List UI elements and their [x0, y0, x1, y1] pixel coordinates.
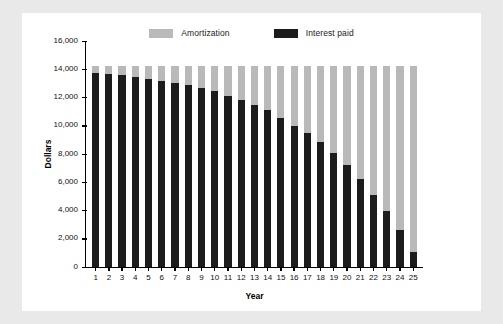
bar-segment-interest-paid[interactable]: [343, 165, 350, 267]
stacked-bar[interactable]: [185, 66, 192, 267]
bar-group[interactable]: [155, 41, 168, 267]
bar-segment-amortization[interactable]: [211, 66, 218, 92]
stacked-bar[interactable]: [343, 66, 350, 267]
bar-segment-amortization[interactable]: [357, 66, 364, 180]
bar-segment-interest-paid[interactable]: [171, 83, 178, 267]
bar-segment-interest-paid[interactable]: [396, 230, 403, 267]
bar-group[interactable]: [393, 41, 406, 267]
bar-segment-amortization[interactable]: [264, 66, 271, 110]
bar-segment-interest-paid[interactable]: [304, 133, 311, 267]
bar-segment-interest-paid[interactable]: [238, 100, 245, 267]
bar-group[interactable]: [367, 41, 380, 267]
bar-group[interactable]: [354, 41, 367, 267]
bar-group[interactable]: [261, 41, 274, 267]
bar-segment-interest-paid[interactable]: [357, 179, 364, 267]
bar-group[interactable]: [380, 41, 393, 267]
bar-segment-interest-paid[interactable]: [158, 81, 165, 267]
stacked-bar[interactable]: [92, 66, 99, 267]
stacked-bar[interactable]: [330, 66, 337, 267]
bar-group[interactable]: [248, 41, 261, 267]
bar-segment-amortization[interactable]: [198, 66, 205, 88]
stacked-bar[interactable]: [171, 66, 178, 267]
bar-segment-amortization[interactable]: [171, 66, 178, 83]
stacked-bar[interactable]: [118, 66, 125, 267]
bar-segment-amortization[interactable]: [370, 66, 377, 195]
bar-segment-interest-paid[interactable]: [118, 75, 125, 267]
stacked-bar[interactable]: [211, 66, 218, 267]
bar-segment-amortization[interactable]: [291, 66, 298, 126]
stacked-bar[interactable]: [132, 66, 139, 267]
stacked-bar[interactable]: [198, 66, 205, 267]
bar-segment-amortization[interactable]: [396, 66, 403, 230]
bar-group[interactable]: [89, 41, 102, 267]
stacked-bar[interactable]: [317, 66, 324, 267]
bar-segment-amortization[interactable]: [330, 66, 337, 154]
bar-segment-amortization[interactable]: [383, 66, 390, 211]
stacked-bar[interactable]: [410, 66, 417, 267]
stacked-bar[interactable]: [158, 66, 165, 267]
bar-group[interactable]: [168, 41, 181, 267]
bar-segment-amortization[interactable]: [317, 66, 324, 143]
bar-group[interactable]: [102, 41, 115, 267]
bar-group[interactable]: [301, 41, 314, 267]
stacked-bar[interactable]: [251, 66, 258, 267]
bar-group[interactable]: [340, 41, 353, 267]
bar-segment-interest-paid[interactable]: [277, 118, 284, 267]
bar-group[interactable]: [221, 41, 234, 267]
bar-segment-amortization[interactable]: [105, 66, 112, 75]
bar-group[interactable]: [274, 41, 287, 267]
bar-segment-interest-paid[interactable]: [370, 195, 377, 267]
stacked-bar[interactable]: [396, 66, 403, 267]
bar-group[interactable]: [327, 41, 340, 267]
bar-segment-interest-paid[interactable]: [410, 252, 417, 267]
stacked-bar[interactable]: [383, 66, 390, 267]
bar-segment-amortization[interactable]: [158, 66, 165, 81]
bar-segment-interest-paid[interactable]: [383, 211, 390, 267]
bar-group[interactable]: [182, 41, 195, 267]
bar-segment-interest-paid[interactable]: [105, 74, 112, 267]
bar-segment-interest-paid[interactable]: [92, 73, 99, 267]
bar-segment-amortization[interactable]: [277, 66, 284, 118]
bar-segment-interest-paid[interactable]: [251, 105, 258, 267]
bar-segment-interest-paid[interactable]: [185, 85, 192, 267]
bar-segment-interest-paid[interactable]: [317, 142, 324, 267]
stacked-bar[interactable]: [291, 66, 298, 267]
stacked-bar[interactable]: [224, 66, 231, 267]
bar-segment-amortization[interactable]: [251, 66, 258, 105]
stacked-bar[interactable]: [238, 66, 245, 267]
bar-segment-interest-paid[interactable]: [330, 153, 337, 267]
bar-segment-amortization[interactable]: [410, 66, 417, 252]
bar-segment-amortization[interactable]: [238, 66, 245, 100]
bar-group[interactable]: [235, 41, 248, 267]
stacked-bar[interactable]: [145, 66, 152, 267]
bar-segment-interest-paid[interactable]: [132, 77, 139, 267]
stacked-bar[interactable]: [264, 66, 271, 267]
bar-group[interactable]: [407, 41, 420, 267]
bar-segment-interest-paid[interactable]: [211, 91, 218, 267]
bar-group[interactable]: [208, 41, 221, 267]
bar-group[interactable]: [195, 41, 208, 267]
bar-segment-amortization[interactable]: [304, 66, 311, 133]
stacked-bar[interactable]: [370, 66, 377, 267]
bar-segment-interest-paid[interactable]: [224, 96, 231, 267]
bar-segment-amortization[interactable]: [185, 66, 192, 86]
bar-segment-amortization[interactable]: [343, 66, 350, 165]
bar-segment-amortization[interactable]: [132, 66, 139, 78]
bar-segment-amortization[interactable]: [118, 66, 125, 76]
bar-group[interactable]: [129, 41, 142, 267]
bar-group[interactable]: [115, 41, 128, 267]
stacked-bar[interactable]: [277, 66, 284, 267]
bar-segment-amortization[interactable]: [224, 66, 231, 96]
stacked-bar[interactable]: [105, 66, 112, 267]
bar-segment-interest-paid[interactable]: [198, 88, 205, 267]
bar-group[interactable]: [314, 41, 327, 267]
bar-group[interactable]: [288, 41, 301, 267]
bar-group[interactable]: [142, 41, 155, 267]
stacked-bar[interactable]: [304, 66, 311, 267]
bar-segment-interest-paid[interactable]: [264, 110, 271, 267]
stacked-bar[interactable]: [357, 66, 364, 267]
bar-segment-amortization[interactable]: [92, 66, 99, 74]
bar-segment-interest-paid[interactable]: [291, 126, 298, 267]
bar-segment-interest-paid[interactable]: [145, 79, 152, 267]
bar-segment-amortization[interactable]: [145, 66, 152, 79]
